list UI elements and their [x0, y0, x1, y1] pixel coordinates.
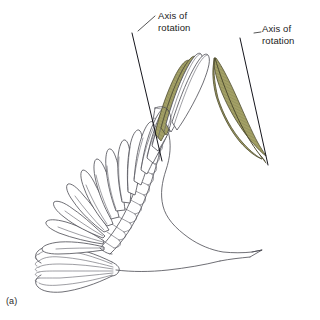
wing-axis-label-line2: rotation	[158, 22, 191, 33]
wing-axis-label-line1: Axis of	[158, 10, 187, 21]
feather-axis-label-line2: rotation	[262, 35, 295, 46]
panel-label: (a)	[6, 296, 17, 308]
wing-axis-label: Axis ofrotation	[158, 10, 191, 33]
feather-axis-label-line1: Axis of	[262, 23, 291, 34]
wing-label-leader-line	[138, 16, 155, 31]
feather-axis-label: Axis ofrotation	[262, 23, 295, 46]
wing-primary-feathers-lower	[42, 122, 155, 254]
figure-panel: Axis ofrotation Axis ofrotation (a)	[0, 0, 320, 320]
isolated-feather	[213, 58, 266, 163]
feather-label-leader-line	[254, 32, 261, 33]
bird-wing-illustration	[0, 0, 320, 320]
